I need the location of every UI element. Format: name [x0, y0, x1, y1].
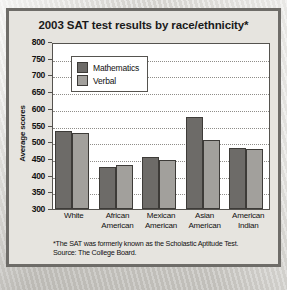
- y-axis-tick-label: 500: [32, 137, 45, 147]
- x-axis-label: AmericanIndian: [226, 211, 270, 230]
- y-axis-tick-label: 800: [32, 37, 45, 47]
- legend-item-verbal: Verbal: [77, 74, 139, 87]
- footnote-line-1: *The SAT was formerly known as the Schol…: [53, 239, 268, 248]
- bar-verbal: [246, 149, 263, 209]
- y-axis-tick-label: 550: [32, 121, 45, 131]
- x-axis-labels: WhiteAfricanAmericanMexicanAmericanAsian…: [52, 211, 270, 233]
- legend-label-mathematics: Mathematics: [93, 63, 139, 73]
- x-axis-label-line: Indian: [226, 221, 270, 231]
- legend-swatch-verbal: [77, 75, 88, 86]
- legend-label-verbal: Verbal: [93, 76, 116, 86]
- legend-swatch-mathematics: [77, 62, 88, 73]
- legend-item-mathematics: Mathematics: [77, 61, 139, 74]
- chart-panel: 2003 SAT test results by race/ethnicity*…: [9, 11, 278, 264]
- x-axis-label: AsianAmerican: [183, 211, 227, 230]
- bar-verbal: [72, 133, 89, 209]
- bar-mathematics: [186, 117, 203, 209]
- bar-mathematics: [142, 157, 159, 209]
- bar-mathematics: [99, 167, 116, 209]
- plot-area: Mathematics Verbal: [52, 43, 270, 210]
- y-axis-tick-label: 350: [32, 187, 45, 197]
- x-axis-label: MexicanAmerican: [139, 211, 183, 230]
- y-axis-tick-label: 300: [32, 204, 45, 214]
- y-axis-tick-label: 750: [32, 54, 45, 64]
- x-axis-label-line: American: [183, 221, 227, 231]
- bar-mathematics: [55, 131, 72, 209]
- bar-mathematics: [229, 148, 246, 209]
- y-axis-tick-label: 600: [32, 104, 45, 114]
- footnote-line-2: Source: The College Board.: [53, 248, 268, 257]
- x-axis-label: AfricanAmerican: [96, 211, 140, 230]
- bar-group: [227, 44, 271, 209]
- x-axis-label: White: [52, 211, 96, 221]
- bar-verbal: [159, 160, 176, 209]
- bar-group: [184, 44, 228, 209]
- footnote: *The SAT was formerly known as the Schol…: [53, 239, 268, 257]
- y-axis-tick-label: 700: [32, 70, 45, 80]
- y-axis-ticks: 800750700650600550500450400350300: [9, 43, 52, 210]
- y-axis-tick-label: 450: [32, 154, 45, 164]
- x-axis-label-line: Mexican: [139, 211, 183, 221]
- x-axis-label-line: American: [96, 221, 140, 231]
- y-axis-tick-label: 650: [32, 87, 45, 97]
- chart-frame: 2003 SAT test results by race/ethnicity*…: [6, 8, 281, 267]
- bar-verbal: [116, 165, 133, 209]
- chart-title: 2003 SAT test results by race/ethnicity*: [9, 19, 278, 31]
- x-axis-label-line: American: [139, 221, 183, 231]
- bar-verbal: [203, 140, 220, 209]
- x-axis-label-line: American: [226, 211, 270, 221]
- x-axis-label-line: White: [52, 211, 96, 221]
- x-axis-label-line: African: [96, 211, 140, 221]
- legend: Mathematics Verbal: [71, 56, 148, 92]
- x-axis-label-line: Asian: [183, 211, 227, 221]
- y-axis-tick-label: 400: [32, 171, 45, 181]
